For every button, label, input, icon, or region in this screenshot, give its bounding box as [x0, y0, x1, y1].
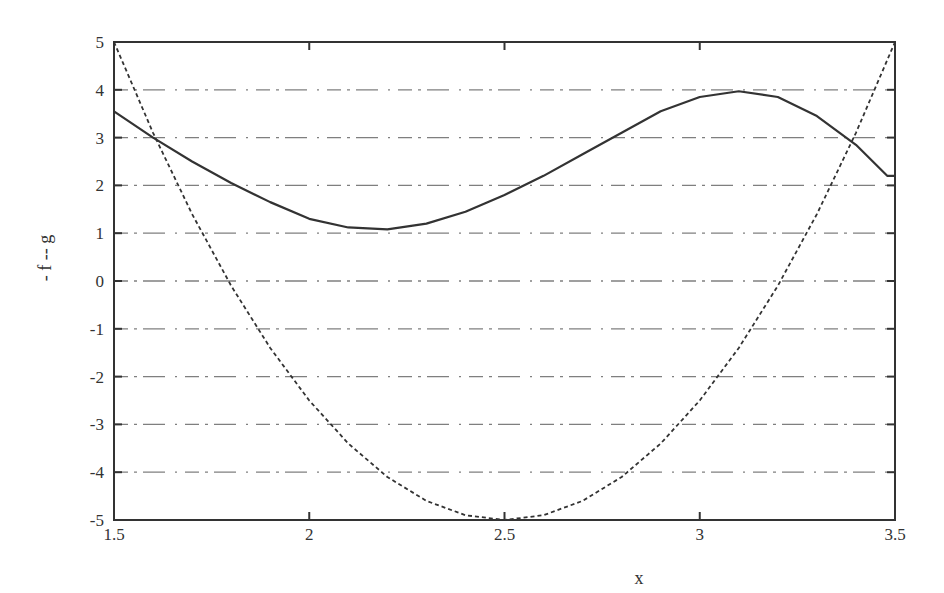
y-tick-label: -3 — [90, 415, 104, 434]
y-tick-label: 3 — [96, 129, 105, 148]
x-axis-label: x — [635, 568, 644, 588]
y-tick-label: 4 — [96, 81, 105, 100]
y-tick-label: -5 — [90, 511, 104, 530]
line-chart: 543210-1-2-3-4-51.522.533.5x- f -- g — [0, 0, 944, 593]
series-f-line — [114, 91, 895, 229]
x-tick-label: 2.5 — [494, 525, 515, 544]
x-tick-label: 2 — [305, 525, 314, 544]
y-axis-label: - f -- g — [35, 235, 55, 281]
y-tick-label: -1 — [90, 320, 104, 339]
x-tick-label: 3 — [696, 525, 705, 544]
y-tick-label: 1 — [96, 224, 105, 243]
x-tick-label: 3.5 — [884, 525, 905, 544]
x-tick-label: 1.5 — [103, 525, 124, 544]
y-tick-label: 5 — [96, 33, 105, 52]
y-tick-label: -4 — [90, 463, 105, 482]
y-tick-label: -2 — [90, 368, 104, 387]
y-tick-label: 2 — [96, 176, 105, 195]
y-tick-label: 0 — [96, 272, 105, 291]
